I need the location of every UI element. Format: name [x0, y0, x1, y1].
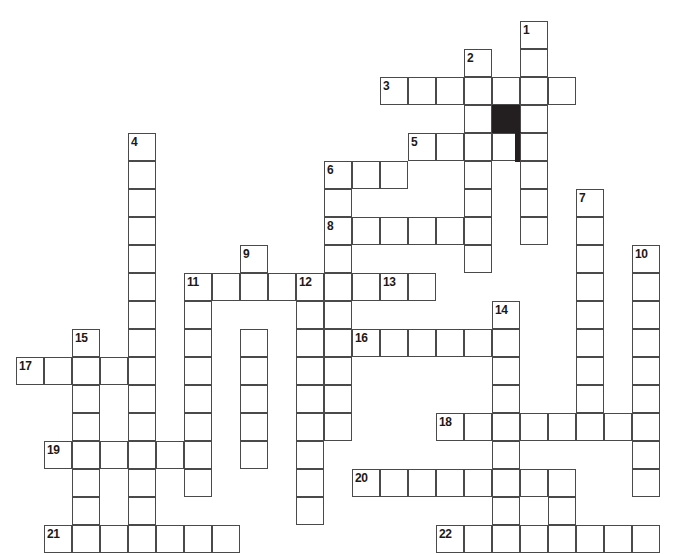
- crossword-cell[interactable]: [184, 413, 212, 441]
- crossword-cell[interactable]: [184, 273, 212, 301]
- crossword-cell[interactable]: [576, 217, 604, 245]
- crossword-cell[interactable]: [408, 77, 436, 105]
- crossword-cell[interactable]: [408, 133, 436, 161]
- crossword-cell[interactable]: [184, 525, 212, 553]
- crossword-cell[interactable]: [436, 469, 464, 497]
- crossword-cell[interactable]: [492, 525, 520, 553]
- crossword-cell[interactable]: [632, 385, 660, 413]
- crossword-cell[interactable]: [492, 441, 520, 469]
- crossword-cell[interactable]: [324, 329, 352, 357]
- crossword-cell[interactable]: [128, 301, 156, 329]
- crossword-cell[interactable]: [492, 357, 520, 385]
- crossword-cell[interactable]: [184, 329, 212, 357]
- crossword-cell[interactable]: [380, 469, 408, 497]
- crossword-cell[interactable]: [128, 525, 156, 553]
- crossword-cell[interactable]: [576, 385, 604, 413]
- crossword-cell[interactable]: [492, 133, 520, 161]
- crossword-cell[interactable]: [632, 273, 660, 301]
- crossword-cell[interactable]: [44, 525, 72, 553]
- crossword-cell[interactable]: [464, 77, 492, 105]
- crossword-cell[interactable]: [296, 301, 324, 329]
- crossword-cell[interactable]: [632, 525, 660, 553]
- crossword-cell[interactable]: [632, 441, 660, 469]
- crossword-cell[interactable]: [240, 441, 268, 469]
- crossword-cell[interactable]: [380, 329, 408, 357]
- crossword-cell[interactable]: [380, 273, 408, 301]
- crossword-cell[interactable]: [520, 525, 548, 553]
- crossword-cell[interactable]: [324, 189, 352, 217]
- crossword-cell[interactable]: [520, 105, 548, 133]
- crossword-cell[interactable]: [464, 105, 492, 133]
- crossword-cell[interactable]: [464, 525, 492, 553]
- crossword-cell[interactable]: [72, 469, 100, 497]
- crossword-cell[interactable]: [268, 273, 296, 301]
- crossword-cell[interactable]: [548, 469, 576, 497]
- crossword-cell[interactable]: [296, 273, 324, 301]
- crossword-cell[interactable]: [324, 385, 352, 413]
- crossword-cell[interactable]: [632, 469, 660, 497]
- crossword-cell[interactable]: [352, 329, 380, 357]
- crossword-cell[interactable]: [352, 469, 380, 497]
- crossword-puzzle-grid[interactable]: 12345678910111213141516171819202122: [0, 0, 675, 554]
- crossword-cell[interactable]: [576, 413, 604, 441]
- crossword-cell[interactable]: [464, 469, 492, 497]
- crossword-cell[interactable]: [100, 357, 128, 385]
- crossword-cell[interactable]: [576, 329, 604, 357]
- crossword-cell[interactable]: [464, 161, 492, 189]
- crossword-cell[interactable]: [296, 357, 324, 385]
- crossword-cell[interactable]: [296, 441, 324, 469]
- crossword-cell[interactable]: [408, 329, 436, 357]
- crossword-cell[interactable]: [520, 413, 548, 441]
- crossword-cell[interactable]: [184, 385, 212, 413]
- crossword-cell[interactable]: [464, 49, 492, 77]
- crossword-cell[interactable]: [520, 49, 548, 77]
- crossword-cell[interactable]: [520, 21, 548, 49]
- crossword-cell[interactable]: [324, 217, 352, 245]
- crossword-cell[interactable]: [44, 357, 72, 385]
- crossword-cell[interactable]: [324, 357, 352, 385]
- crossword-cell[interactable]: [212, 525, 240, 553]
- crossword-cell[interactable]: [520, 77, 548, 105]
- crossword-cell[interactable]: [324, 413, 352, 441]
- crossword-cell[interactable]: [408, 217, 436, 245]
- crossword-cell[interactable]: [576, 273, 604, 301]
- crossword-cell[interactable]: [240, 413, 268, 441]
- crossword-cell[interactable]: [184, 301, 212, 329]
- crossword-cell[interactable]: [72, 413, 100, 441]
- crossword-cell[interactable]: [632, 301, 660, 329]
- crossword-cell[interactable]: [324, 301, 352, 329]
- crossword-cell[interactable]: [604, 413, 632, 441]
- crossword-cell[interactable]: [324, 245, 352, 273]
- crossword-cell[interactable]: [464, 189, 492, 217]
- crossword-cell[interactable]: [632, 357, 660, 385]
- crossword-cell[interactable]: [128, 217, 156, 245]
- crossword-cell[interactable]: [72, 385, 100, 413]
- crossword-cell[interactable]: [352, 217, 380, 245]
- crossword-cell[interactable]: [408, 469, 436, 497]
- crossword-cell[interactable]: [72, 357, 100, 385]
- crossword-cell[interactable]: [156, 525, 184, 553]
- crossword-cell[interactable]: [128, 189, 156, 217]
- crossword-cell[interactable]: [128, 385, 156, 413]
- crossword-cell[interactable]: [44, 441, 72, 469]
- crossword-cell[interactable]: [380, 161, 408, 189]
- crossword-cell[interactable]: [520, 133, 548, 161]
- crossword-cell[interactable]: [492, 329, 520, 357]
- crossword-cell[interactable]: [576, 357, 604, 385]
- crossword-cell[interactable]: [72, 329, 100, 357]
- crossword-cell[interactable]: [548, 413, 576, 441]
- crossword-cell[interactable]: [352, 273, 380, 301]
- crossword-cell[interactable]: [100, 441, 128, 469]
- crossword-cell[interactable]: [492, 301, 520, 329]
- crossword-cell[interactable]: [128, 329, 156, 357]
- crossword-cell[interactable]: [100, 525, 128, 553]
- crossword-cell[interactable]: [632, 413, 660, 441]
- crossword-cell[interactable]: [436, 133, 464, 161]
- crossword-cell[interactable]: [240, 357, 268, 385]
- crossword-cell[interactable]: [436, 329, 464, 357]
- crossword-cell[interactable]: [156, 441, 184, 469]
- crossword-cell[interactable]: [464, 245, 492, 273]
- crossword-cell[interactable]: [632, 329, 660, 357]
- crossword-cell[interactable]: [240, 385, 268, 413]
- crossword-cell[interactable]: [296, 497, 324, 525]
